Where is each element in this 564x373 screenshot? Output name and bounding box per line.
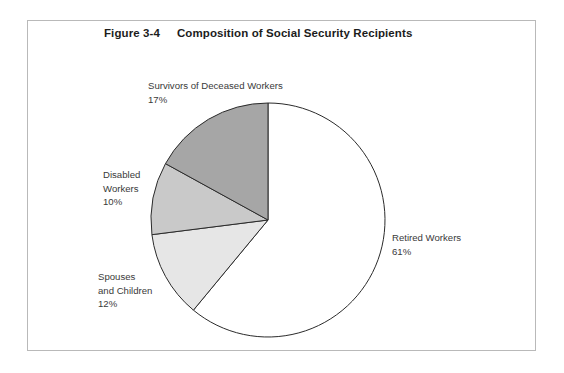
pie-label-survivors-percent: 17% [148, 93, 283, 107]
pie-chart-svg [0, 0, 564, 373]
pie-label-spouses-percent: 12% [98, 297, 152, 311]
pie-label-survivors-text: Survivors of Deceased Workers [148, 79, 283, 93]
pie-label-retired-text: Retired Workers [392, 231, 461, 245]
pie-label-spouses-line1: Spouses [98, 270, 152, 284]
pie-label-retired-workers: Retired Workers 61% [392, 231, 461, 258]
pie-label-disabled-percent: 10% [103, 195, 140, 209]
pie-label-retired-percent: 61% [392, 245, 461, 259]
figure-root: Figure 3-4Composition of Social Security… [0, 0, 564, 373]
pie-label-spouses-line2: and Children [98, 284, 152, 298]
pie-label-spouses-and-children: Spouses and Children 12% [98, 270, 152, 311]
pie-label-disabled-line2: Workers [103, 182, 140, 196]
pie-label-survivors: Survivors of Deceased Workers 17% [148, 79, 283, 106]
pie-label-disabled-line1: Disabled [103, 168, 140, 182]
pie-label-disabled-workers: Disabled Workers 10% [103, 168, 140, 209]
pie-chart: Survivors of Deceased Workers 17% Disabl… [0, 0, 564, 373]
